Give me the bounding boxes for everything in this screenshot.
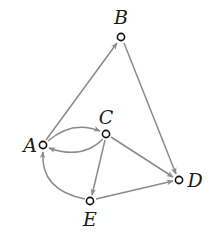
node-label-c: C [99,106,114,128]
node-c [102,130,109,137]
node-e [86,197,93,204]
edge-a-to-c [48,127,100,141]
node-a [39,141,46,148]
node-d [175,176,182,183]
node-label-e: E [82,208,97,230]
edge-e-to-a [43,152,85,199]
edge-c-to-e [92,140,105,195]
node-label-d: D [186,169,202,191]
node-b [117,33,124,40]
node-label-b: B [113,6,128,28]
edge-b-to-d [124,43,176,174]
labels: A B C D E [21,6,202,230]
edge-c-to-a [49,139,103,152]
node-label-a: A [21,134,37,156]
directed-graph: A B C D E [0,0,214,235]
edge-e-to-d [96,181,173,199]
